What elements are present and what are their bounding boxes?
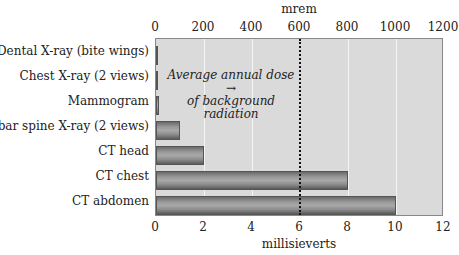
- top-tick: 400: [240, 20, 263, 34]
- bar-ct-abdomen: [156, 196, 396, 215]
- bar-ct-chest: [156, 171, 348, 190]
- gridline: [396, 39, 397, 215]
- category-label: Chest X-ray (2 views): [20, 69, 149, 83]
- category-label: CT chest: [95, 169, 149, 183]
- bar-lumbar: [156, 121, 180, 140]
- top-tick: 800: [336, 20, 359, 34]
- bar-dental: [156, 46, 158, 65]
- gridline: [348, 39, 349, 215]
- bottom-tick: 12: [435, 220, 450, 234]
- bottom-tick: 8: [343, 220, 351, 234]
- bottom-axis-title: millisieverts: [262, 237, 336, 251]
- category-label: CT abdomen: [72, 194, 149, 208]
- category-label: CT head: [98, 144, 149, 158]
- annotation-line2: of background radiation: [161, 95, 301, 121]
- bottom-tick: 4: [247, 220, 255, 234]
- bottom-tick: 0: [151, 220, 159, 234]
- category-label: Dental X-ray (bite wings): [0, 44, 149, 58]
- bar-ct-head: [156, 146, 204, 165]
- top-tick: 1200: [428, 20, 459, 34]
- bottom-tick: 2: [199, 220, 207, 234]
- bottom-tick: 6: [295, 220, 303, 234]
- radiation-dose-chart: mrem 0 200 400 600 800 1000 1200 Average…: [0, 0, 459, 255]
- top-tick: 1000: [380, 20, 411, 34]
- background-dose-line: [299, 39, 301, 215]
- category-label: Mammogram: [68, 94, 149, 108]
- plot-area: Average annual dose → of background radi…: [155, 38, 443, 216]
- annotation: Average annual dose → of background radi…: [161, 69, 301, 121]
- bottom-tick: 10: [387, 220, 402, 234]
- annotation-line1: Average annual dose →: [161, 69, 301, 95]
- top-axis-title: mrem: [281, 2, 317, 16]
- top-tick: 600: [288, 20, 311, 34]
- bar-mammogram: [156, 96, 159, 115]
- top-tick: 200: [192, 20, 215, 34]
- category-label: Lumbar spine X-ray (2 views): [0, 119, 149, 133]
- top-tick: 0: [151, 20, 159, 34]
- bar-chest-xray: [156, 71, 158, 90]
